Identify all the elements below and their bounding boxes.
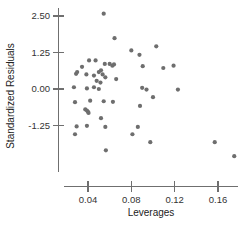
data-point: [144, 87, 148, 91]
data-point: [92, 73, 96, 77]
data-point: [176, 87, 180, 91]
x-tick-label: 0.12: [165, 194, 184, 205]
scatter-plot-figure: 2.501.250.00-1.25 0.040.080.120.16 Lever…: [0, 0, 246, 229]
data-point: [93, 58, 97, 62]
data-point: [85, 124, 89, 128]
data-point: [99, 68, 103, 72]
x-tick-label: 0.16: [209, 194, 228, 205]
y-tick-label: 1.25: [32, 47, 51, 58]
data-point: [73, 100, 77, 104]
data-point: [75, 124, 79, 128]
data-point: [137, 53, 141, 57]
data-point: [114, 77, 118, 81]
data-point: [85, 86, 89, 90]
data-point: [103, 62, 107, 66]
data-point: [112, 36, 116, 40]
x-axis-title: Leverages: [128, 207, 175, 218]
data-point: [95, 79, 99, 83]
data-point: [102, 99, 106, 103]
y-axis-title: Standardized Residuals: [5, 43, 16, 149]
data-point: [232, 154, 236, 158]
data-point: [72, 85, 76, 89]
x-tick-label: 0.08: [122, 194, 141, 205]
data-point: [99, 116, 103, 120]
data-point: [130, 132, 134, 136]
data-point: [92, 85, 96, 89]
chart-canvas: 2.501.250.00-1.25 0.040.080.120.16 Lever…: [0, 0, 246, 229]
data-point-group: [72, 12, 237, 159]
data-point: [161, 66, 165, 70]
data-point: [213, 140, 217, 144]
y-tick-label: 2.50: [32, 10, 51, 21]
data-point: [75, 70, 79, 74]
data-point: [88, 99, 92, 103]
data-point: [136, 125, 140, 129]
data-point: [111, 100, 115, 104]
data-point: [73, 132, 77, 136]
data-point: [140, 86, 144, 90]
data-point: [98, 80, 102, 84]
x-axis: 0.040.080.120.16: [64, 181, 238, 205]
data-point: [103, 75, 107, 79]
data-point: [87, 58, 91, 62]
data-point: [104, 148, 108, 152]
data-point: [154, 44, 158, 48]
data-point: [138, 104, 142, 108]
y-axis: 2.501.250.00-1.25: [28, 8, 64, 172]
data-point: [86, 111, 90, 115]
y-tick-label: -1.25: [28, 120, 50, 131]
y-tick-label: 0.00: [32, 83, 51, 94]
data-point: [112, 62, 116, 66]
data-point: [141, 64, 145, 68]
x-tick-group: 0.040.080.120.16: [79, 181, 228, 205]
data-point: [102, 12, 106, 16]
data-point: [80, 65, 84, 69]
data-point: [103, 125, 107, 129]
data-point: [151, 95, 155, 99]
x-tick-label: 0.04: [79, 194, 98, 205]
data-point: [171, 64, 175, 68]
data-point: [84, 72, 88, 76]
data-point: [129, 48, 133, 52]
data-point: [97, 87, 101, 91]
data-point: [148, 140, 152, 144]
